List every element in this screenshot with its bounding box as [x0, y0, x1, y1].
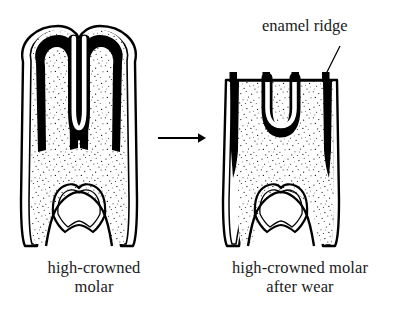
- enamel-ridge-stub-3: [292, 72, 300, 82]
- caption-worn-molar: high-crowned molar after wear: [196, 258, 404, 296]
- unworn-molar: [20, 26, 140, 248]
- transformation-arrow: [158, 133, 206, 143]
- enamel-ridge-stub-1: [230, 72, 238, 82]
- enamel-ridge-leader-line: [323, 46, 340, 80]
- worn-molar: [222, 72, 342, 250]
- enamel-ridge-stub-2: [263, 72, 271, 82]
- enamel-ridge-annotation-label: enamel ridge: [262, 16, 404, 35]
- caption-unworn-molar: high-crowned molar: [2, 258, 186, 296]
- tooth-wear-figure: enamel ridge high-crowned molar high-cro…: [0, 0, 406, 327]
